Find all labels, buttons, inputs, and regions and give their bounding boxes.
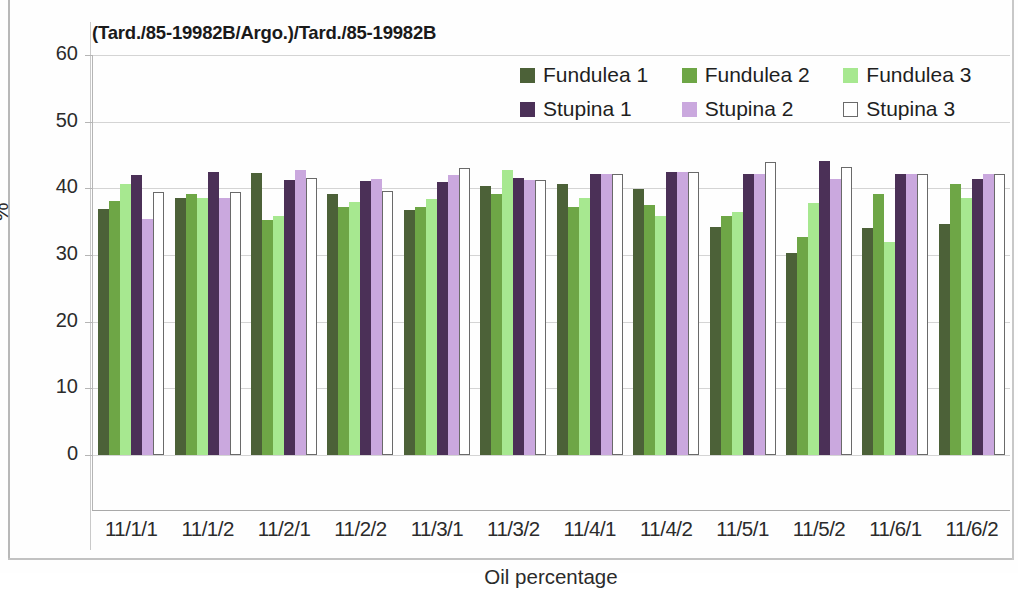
y-axis-title: % [0, 203, 13, 222]
bar [884, 242, 895, 455]
bar [612, 174, 623, 455]
bar [219, 198, 230, 455]
bar [131, 175, 142, 455]
bar [284, 180, 295, 455]
bar [906, 174, 917, 455]
bar [819, 161, 830, 455]
y-tick-label-30: 30 [18, 242, 78, 265]
y-tick-40 [85, 188, 92, 189]
bar [175, 198, 186, 455]
x-axis-title: Oil percentage [92, 565, 1010, 589]
page-frame-left-edge [8, 0, 10, 560]
chart-title: (Tard./85-19982B/Argo.)/Tard./85-19982B [92, 22, 436, 44]
bar [208, 172, 219, 455]
bar [295, 170, 306, 455]
bar [710, 227, 721, 455]
bar-group [246, 55, 322, 455]
bar [765, 162, 776, 455]
bar [579, 198, 590, 455]
bar-group [934, 55, 1010, 455]
y-tick-30 [85, 255, 92, 256]
bar [808, 203, 819, 455]
bar [917, 174, 928, 455]
bar-group [93, 55, 169, 455]
bar [251, 173, 262, 455]
bar [873, 194, 884, 455]
bar [273, 216, 284, 455]
bar [338, 207, 349, 455]
bar [197, 198, 208, 455]
bar [939, 224, 950, 455]
x-tick-label: 11/5/2 [781, 517, 857, 541]
bar [349, 202, 360, 455]
y-tick-label-60: 60 [18, 42, 78, 65]
x-axis-line [92, 510, 1010, 511]
bar [677, 172, 688, 455]
y-tick-60 [85, 55, 92, 56]
x-tick-label: 11/2/2 [322, 517, 398, 541]
x-tick-label: 11/1/2 [169, 517, 245, 541]
bar [972, 179, 983, 455]
bar-group [781, 55, 857, 455]
bar-group [399, 55, 475, 455]
bar-groups [93, 55, 1010, 455]
x-tick-label: 11/3/1 [399, 517, 475, 541]
bar [437, 182, 448, 455]
y-tick-10 [85, 388, 92, 389]
y-tick-label-40: 40 [18, 175, 78, 198]
gridline-0 [92, 455, 1010, 456]
bar [459, 168, 470, 455]
bar [666, 172, 677, 455]
bar [655, 216, 666, 455]
bar [644, 205, 655, 455]
bar [382, 191, 393, 455]
bar [153, 192, 164, 455]
bar [732, 212, 743, 455]
page-frame-bottom-edge [8, 558, 1012, 560]
bar [786, 253, 797, 455]
bar [230, 192, 241, 455]
bar [841, 167, 852, 455]
bar [415, 207, 426, 455]
bar-group [475, 55, 551, 455]
bar [830, 179, 841, 455]
bar [961, 198, 972, 455]
bar-group [552, 55, 628, 455]
bar [142, 219, 153, 455]
bar [109, 201, 120, 455]
bar [568, 207, 579, 455]
bar [262, 220, 273, 455]
bar [480, 186, 491, 455]
bar [721, 216, 732, 455]
bar [120, 184, 131, 455]
bar [601, 174, 612, 455]
y-tick-50 [85, 122, 92, 123]
bar-group [704, 55, 780, 455]
bar [743, 174, 754, 455]
y-tick-label-0: 0 [18, 442, 78, 465]
bar [371, 179, 382, 455]
y-tick-20 [85, 322, 92, 323]
bar [590, 174, 601, 455]
bar-group [857, 55, 933, 455]
x-tick-label: 11/4/1 [552, 517, 628, 541]
bar [426, 199, 437, 455]
y-tick-label-50: 50 [18, 109, 78, 132]
bar [754, 174, 765, 455]
y-axis-tick-labels: 6050403020100 [18, 55, 78, 455]
bar [404, 210, 415, 455]
bar [306, 178, 317, 455]
bar [535, 180, 546, 455]
x-axis-tick-labels: 11/1/111/1/211/2/111/2/211/3/111/3/211/4… [93, 517, 1010, 541]
bar [502, 170, 513, 455]
bar [983, 174, 994, 455]
x-tick-label: 11/3/2 [475, 517, 551, 541]
y-tick-0 [85, 455, 92, 456]
bar [688, 172, 699, 455]
bar [98, 209, 109, 455]
bar [895, 174, 906, 455]
bar [360, 181, 371, 455]
plot-area: 11/1/111/1/211/2/111/2/211/3/111/3/211/4… [92, 55, 1010, 455]
bar [448, 175, 459, 455]
